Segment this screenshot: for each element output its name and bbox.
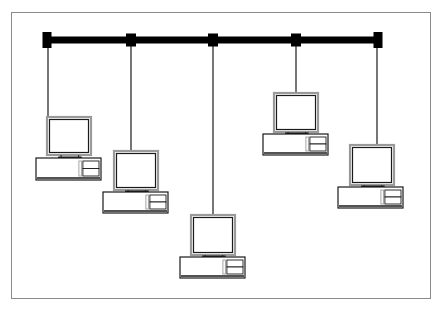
bus-topology-diagram	[0, 0, 439, 310]
drive-bay-icon	[83, 161, 99, 169]
left-terminator	[43, 32, 52, 48]
computer-2	[103, 151, 168, 213]
drive-bay-icon	[150, 202, 166, 209]
computer-4	[263, 93, 328, 155]
drive-bay-icon	[227, 260, 243, 267]
drive-bay-icon	[310, 144, 326, 151]
right-terminator	[374, 32, 383, 48]
computer-5	[338, 145, 403, 208]
drive-bay-icon	[310, 137, 326, 144]
bus-tap-node	[208, 34, 218, 47]
monitor-screen	[277, 96, 316, 130]
drive-slot-icon	[79, 161, 82, 176]
drive-slot-icon	[306, 137, 309, 151]
drive-bay-icon	[385, 197, 401, 204]
bus-tap-node	[291, 34, 301, 47]
drive-slot-icon	[381, 190, 384, 204]
drive-bay-icon	[227, 267, 243, 274]
diagram-canvas	[0, 0, 439, 310]
drive-slot-icon	[223, 260, 226, 274]
bus-tap-node	[126, 34, 136, 47]
computer-3	[180, 215, 245, 278]
drive-slot-icon	[146, 195, 149, 209]
drive-bay-icon	[385, 190, 401, 197]
monitor-screen	[50, 120, 89, 153]
computer-1	[36, 117, 101, 180]
monitor-screen	[117, 154, 156, 188]
drive-bay-icon	[150, 195, 166, 202]
monitor-screen	[194, 218, 233, 253]
drive-bay-icon	[83, 169, 99, 177]
monitor-screen	[353, 148, 392, 183]
